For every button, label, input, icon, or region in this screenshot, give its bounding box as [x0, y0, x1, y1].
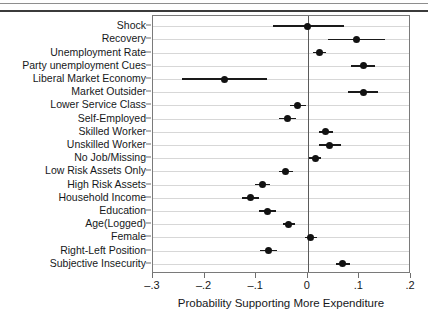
gridline: [153, 158, 409, 159]
y-axis-label-high-risk-assets: High Risk Assets: [67, 178, 146, 189]
y-axis-tick: [146, 157, 151, 158]
y-axis-tick: [146, 104, 151, 105]
y-axis-label-female: Female: [111, 231, 146, 242]
estimate-point: [259, 181, 266, 188]
y-axis-label-lower-service-class: Lower Service Class: [50, 99, 146, 110]
y-axis-label-right-left-position: Right-Left Position: [60, 244, 146, 255]
gridline: [153, 198, 409, 199]
y-axis-label-liberal-market-economy: Liberal Market Economy: [33, 73, 146, 84]
page-rule-thick: [0, 10, 428, 12]
gridline: [153, 132, 409, 133]
y-axis-tick: [146, 210, 151, 211]
y-axis-tick: [146, 38, 151, 39]
x-axis-tick: [358, 273, 359, 278]
estimate-point: [353, 36, 360, 43]
x-axis-tick: [307, 273, 308, 278]
estimate-point: [312, 155, 319, 162]
x-axis-tick: [204, 273, 205, 278]
y-axis-labels: ShockRecoveryUnemployment RateParty unem…: [0, 15, 146, 273]
y-axis-tick: [146, 78, 151, 79]
estimate-point: [265, 247, 272, 254]
y-axis-label-market-outsider: Market Outsider: [71, 86, 146, 97]
y-axis-label-no-job-missing: No Job/Missing: [74, 152, 146, 163]
y-axis-tick: [146, 64, 151, 65]
y-axis-tick: [146, 144, 151, 145]
plot-area: [152, 15, 410, 273]
y-axis-label-unskilled-worker: Unskilled Worker: [67, 139, 146, 150]
y-axis-tick: [146, 249, 151, 250]
y-axis-label-party-unemployment-cues: Party unemployment Cues: [22, 59, 146, 70]
y-axis-label-unemployment-rate: Unemployment Rate: [50, 46, 146, 57]
gridline: [153, 145, 409, 146]
estimate-point: [282, 168, 289, 175]
x-axis-tick-label: 0: [304, 279, 310, 291]
estimate-point: [285, 221, 292, 228]
estimate-point: [322, 128, 329, 135]
y-axis-label-household-income: Household Income: [58, 191, 146, 202]
y-axis-label-subjective-insecurity: Subjective Insecurity: [50, 257, 146, 268]
y-axis-tick: [146, 196, 151, 197]
estimate-point: [284, 115, 291, 122]
estimate-point: [247, 194, 254, 201]
y-axis-label-self-employed: Self-Employed: [78, 112, 146, 123]
y-axis-tick: [146, 223, 151, 224]
y-axis-tick: [146, 117, 151, 118]
gridline: [153, 237, 409, 238]
estimate-point: [304, 23, 311, 30]
estimate-point: [264, 208, 271, 215]
y-axis-label-recovery: Recovery: [102, 33, 146, 44]
y-axis-label-shock: Shock: [117, 20, 146, 31]
estimate-point: [307, 234, 314, 241]
y-axis-tick: [146, 262, 151, 263]
estimate-point: [360, 62, 367, 69]
y-axis-tick: [146, 91, 151, 92]
x-axis-tick-label: –.3: [144, 279, 159, 291]
gridline: [153, 185, 409, 186]
y-axis-tick: [146, 51, 151, 52]
estimate-point: [360, 89, 367, 96]
x-axis-tick-label: –.2: [196, 279, 211, 291]
gridline: [153, 264, 409, 265]
gridline: [153, 211, 409, 212]
estimate-point: [221, 76, 228, 83]
y-axis-label-skilled-worker: Skilled Worker: [79, 125, 147, 136]
x-axis-tick-labels: –.3–.2–.10.1.2: [152, 279, 410, 295]
x-axis-tick: [255, 273, 256, 278]
y-axis-tick: [146, 170, 151, 171]
y-axis-tick: [146, 130, 151, 131]
estimate-point: [339, 260, 346, 267]
gridline: [153, 224, 409, 225]
x-axis-tick: [410, 273, 411, 278]
y-axis-label-low-risk-assets-only: Low Risk Assets Only: [45, 165, 146, 176]
y-axis-tick: [146, 183, 151, 184]
y-axis-tick: [146, 236, 151, 237]
x-axis-tick-label: .2: [405, 279, 414, 291]
x-axis-tick: [152, 273, 153, 278]
gridline: [153, 105, 409, 106]
x-axis-tick-label: .1: [354, 279, 363, 291]
x-axis-tick-label: –.1: [248, 279, 263, 291]
y-axis-tick: [146, 25, 151, 26]
estimate-point: [316, 49, 323, 56]
estimate-point: [294, 102, 301, 109]
gridline: [153, 53, 409, 54]
y-axis-label-age-logged: Age(Logged): [85, 218, 146, 229]
gridline: [153, 251, 409, 252]
estimate-point: [326, 142, 333, 149]
coefficient-plot-figure: ShockRecoveryUnemployment RateParty unem…: [0, 0, 428, 324]
y-axis-label-education: Education: [99, 205, 146, 216]
x-axis-title: Probability Supporting More Expenditure: [152, 297, 410, 309]
page-rule-thin: [0, 3, 428, 4]
